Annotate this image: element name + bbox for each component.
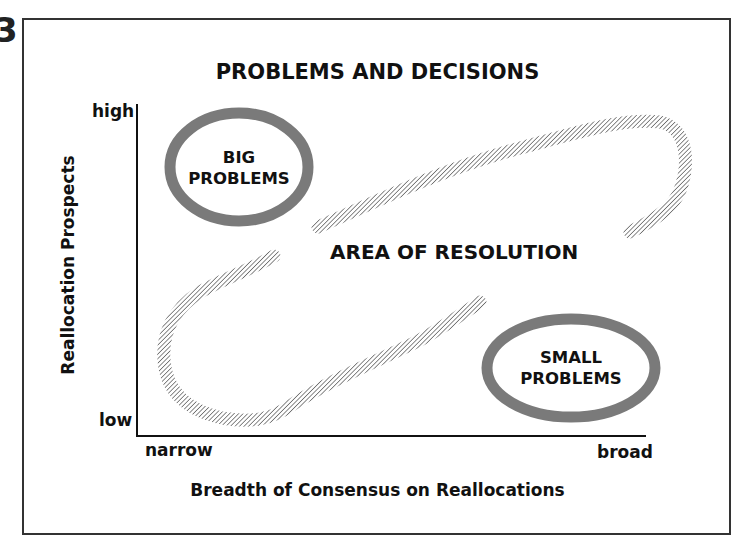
y-axis-high-label: high: [92, 101, 134, 121]
area-of-resolution-label: AREA OF RESOLUTION: [330, 240, 578, 264]
big-problems-line2: PROBLEMS: [179, 168, 299, 189]
hatch-band-lower: [164, 256, 480, 420]
y-axis-low-label: low: [99, 410, 132, 430]
big-problems-line1: BIG: [179, 147, 299, 168]
small-problems-line1: SMALL: [511, 347, 631, 368]
x-axis-narrow-label: narrow: [145, 440, 213, 460]
big-problems-label: BIG PROBLEMS: [179, 147, 299, 189]
small-problems-line2: PROBLEMS: [511, 368, 631, 389]
hatch-band-upper: [318, 121, 685, 232]
x-axis-title: Breadth of Consensus on Reallocations: [0, 480, 755, 500]
small-problems-label: SMALL PROBLEMS: [511, 347, 631, 389]
x-axis-broad-label: broad: [597, 442, 653, 462]
figure-title: PROBLEMS AND DECISIONS: [0, 60, 755, 84]
y-axis-title: Reallocation Prospects: [58, 155, 78, 374]
